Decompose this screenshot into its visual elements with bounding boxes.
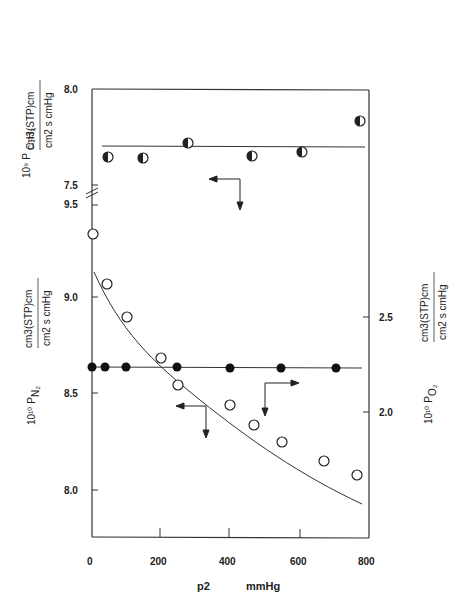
svg-text:10¹⁰ P: 10¹⁰ P bbox=[423, 396, 434, 424]
lower-left-y-axis-quantity: 10¹⁰ P N₂ bbox=[26, 386, 41, 425]
data-point bbox=[156, 353, 166, 363]
svg-text:cm3(STP)cm: cm3(STP)cm bbox=[23, 290, 34, 348]
right-y-axis-label: cm3(STP)cm cm2 s cmHg bbox=[419, 272, 448, 342]
permeability-chart: 8.0 7.5 9.5 9.0 8.5 8.0 2.5 2.0 0 200 40… bbox=[0, 0, 455, 609]
right-ticks bbox=[363, 317, 369, 412]
data-point bbox=[319, 456, 329, 466]
x-tick-600: 600 bbox=[290, 556, 307, 567]
svg-text:cm2 s cmHg: cm2 s cmHg bbox=[437, 284, 448, 340]
x-axis-unit: mmHg bbox=[246, 580, 280, 592]
tick-label-9.0: 9.0 bbox=[64, 292, 78, 303]
data-point bbox=[88, 229, 98, 239]
svg-text:10⁹ P: 10⁹ P bbox=[21, 153, 32, 178]
upper-y-axis-quantity: 10⁹ P C₂H₂ bbox=[21, 128, 36, 178]
data-point bbox=[102, 279, 112, 289]
n2-fit-curve bbox=[94, 272, 362, 504]
data-point bbox=[277, 437, 287, 447]
tick-label-2.5: 2.5 bbox=[379, 312, 393, 323]
data-point bbox=[173, 380, 183, 390]
svg-text:C₂H₂: C₂H₂ bbox=[25, 128, 36, 150]
data-point bbox=[88, 363, 97, 372]
x-tick-400: 400 bbox=[219, 556, 236, 567]
data-point bbox=[249, 420, 259, 430]
bottom-ticks bbox=[160, 528, 300, 538]
data-point bbox=[103, 152, 113, 162]
svg-text:cm2 s cmHg: cm2 s cmHg bbox=[43, 92, 54, 148]
data-point bbox=[173, 363, 182, 372]
tick-label-upper-8.0: 8.0 bbox=[64, 84, 78, 95]
data-point bbox=[122, 363, 131, 372]
data-point bbox=[183, 138, 193, 148]
svg-text:10¹⁰ P: 10¹⁰ P bbox=[26, 397, 37, 425]
data-point bbox=[122, 312, 132, 322]
svg-text:cm2 s cmHg: cm2 s cmHg bbox=[41, 290, 52, 346]
data-point bbox=[352, 470, 362, 480]
n2-series bbox=[88, 229, 362, 480]
o2-axis-arrow-icon bbox=[262, 380, 299, 416]
data-point bbox=[332, 364, 341, 373]
lower-left-y-axis-label: cm3(STP)cm cm2 s cmHg bbox=[23, 278, 52, 348]
tick-label-2.0: 2.0 bbox=[379, 407, 393, 418]
data-point bbox=[247, 151, 257, 161]
x-tick-200: 200 bbox=[150, 556, 167, 567]
tick-label-upper-7.5: 7.5 bbox=[64, 180, 78, 191]
c2h2-axis-arrow-icon bbox=[209, 176, 243, 210]
right-y-axis-quantity: 10¹⁰ P O₂ bbox=[423, 384, 438, 424]
tick-label-8.0: 8.0 bbox=[64, 485, 78, 496]
data-point bbox=[297, 147, 307, 157]
c2h2-series bbox=[103, 116, 365, 163]
x-tick-800: 800 bbox=[358, 556, 375, 567]
data-point bbox=[138, 153, 148, 163]
tick-label-8.5: 8.5 bbox=[64, 388, 78, 399]
tick-label-9.5: 9.5 bbox=[64, 199, 78, 210]
data-point bbox=[226, 364, 235, 373]
data-point bbox=[277, 364, 286, 373]
plot-frame bbox=[92, 89, 369, 538]
data-point bbox=[101, 363, 110, 372]
svg-text:cm3(STP)cm: cm3(STP)cm bbox=[419, 284, 430, 342]
c2h2-fit-line bbox=[102, 146, 365, 147]
n2-axis-arrow-icon bbox=[176, 403, 209, 438]
data-point bbox=[225, 400, 235, 410]
data-point bbox=[355, 116, 365, 126]
svg-text:N₂: N₂ bbox=[30, 386, 41, 397]
svg-text:O₂: O₂ bbox=[427, 384, 438, 396]
x-tick-0: 0 bbox=[87, 556, 93, 567]
x-axis-title: p2 bbox=[197, 580, 210, 592]
